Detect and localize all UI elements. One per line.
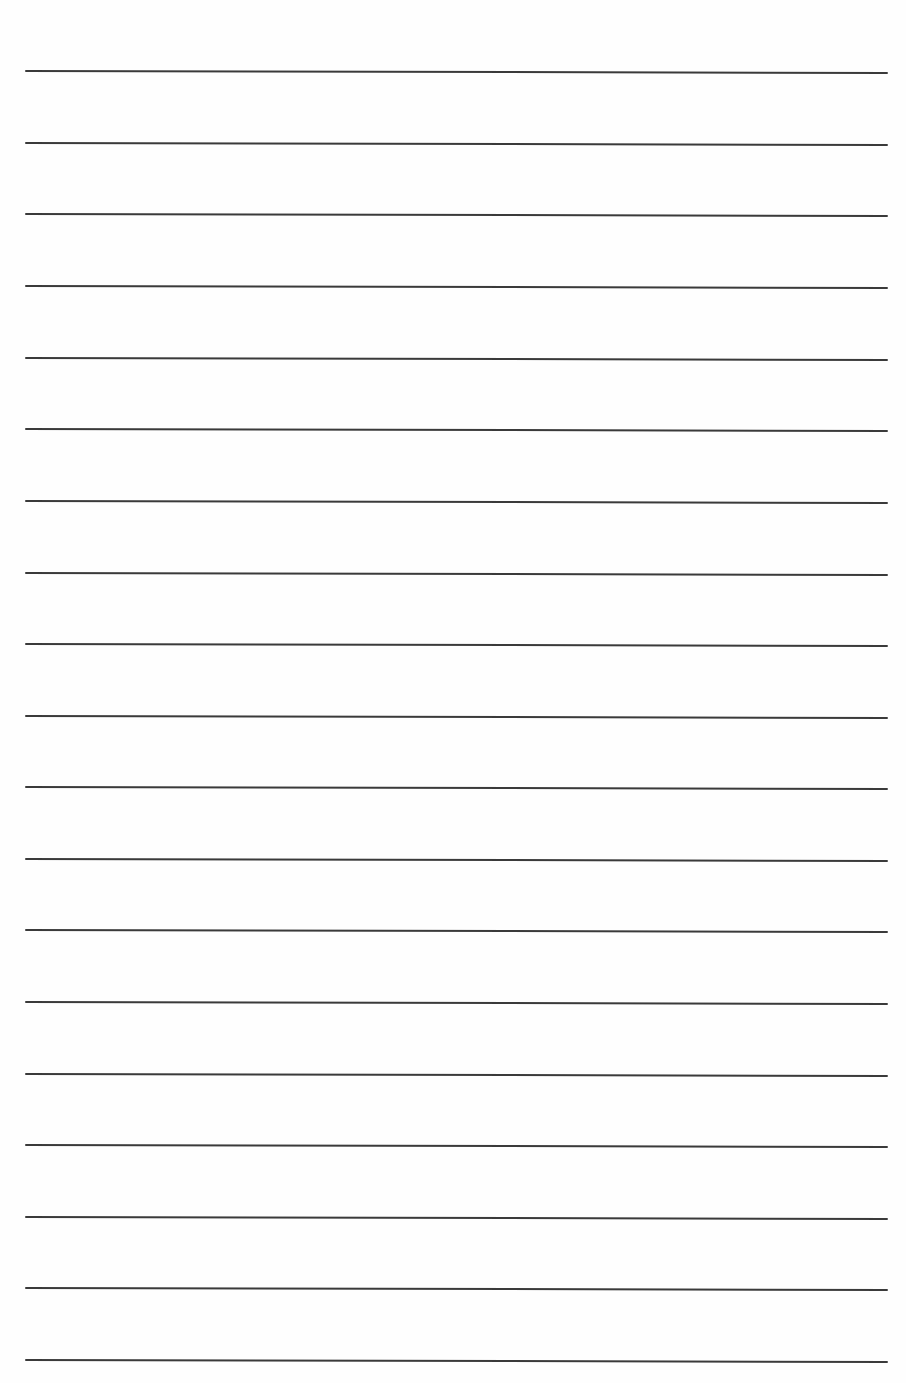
ruled-line [25, 70, 888, 74]
ruled-line [25, 1001, 888, 1005]
ruled-line [25, 858, 888, 862]
ruled-line [25, 1073, 888, 1077]
ruled-line [25, 1216, 888, 1220]
ruled-paper-sheet [0, 0, 906, 1383]
ruled-line [25, 643, 888, 647]
ruled-line [25, 572, 888, 576]
ruled-line [25, 929, 888, 933]
ruled-line [25, 357, 888, 361]
ruled-line [25, 1359, 888, 1363]
ruled-line [25, 428, 888, 432]
ruled-line [25, 142, 888, 146]
ruled-line [25, 213, 888, 217]
ruled-line [25, 1144, 888, 1148]
ruled-line [25, 715, 888, 719]
ruled-line [25, 285, 888, 289]
ruled-line [25, 1287, 888, 1291]
ruled-line [25, 786, 888, 790]
ruled-line [25, 500, 888, 504]
